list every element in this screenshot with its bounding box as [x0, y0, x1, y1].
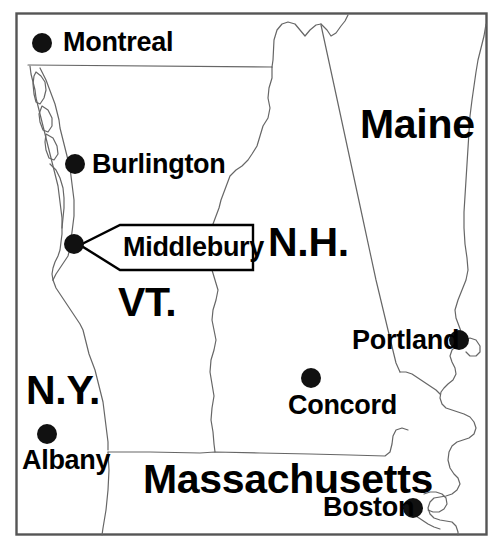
city-label-albany: Albany [22, 447, 110, 474]
state-label-maine: Maine [360, 104, 475, 145]
city-dot-montreal[interactable] [32, 33, 52, 53]
city-label-boston: Boston [323, 494, 414, 521]
city-dot-middlebury[interactable] [64, 234, 84, 254]
state-label-new-york: N.Y. [26, 370, 100, 411]
city-dot-burlington[interactable] [65, 154, 85, 174]
state-label-vermont: VT. [118, 282, 176, 323]
city-label-middlebury: Middlebury [123, 234, 264, 261]
city-label-montreal: Montreal [63, 29, 173, 56]
border-ny-vt [53, 280, 108, 450]
coastline-detail-nh [400, 372, 440, 394]
city-label-concord: Concord [288, 392, 397, 419]
map-figure: Maine N.H. VT. N.Y. Massachusetts Montre… [0, 0, 503, 548]
border-canada-us-west [28, 65, 272, 67]
state-label-new-hampshire: N.H. [268, 222, 349, 263]
border-canada-nh [272, 22, 321, 67]
city-dot-albany[interactable] [37, 424, 57, 444]
city-label-portland: Portland [352, 327, 459, 354]
border-canada-maine [321, 15, 348, 36]
city-label-burlington: Burlington [92, 151, 225, 178]
coastline-detail-bay [416, 516, 440, 529]
border-nh-maine [321, 25, 400, 372]
border-ma-north [108, 428, 408, 456]
lake-champlain-island-3 [45, 134, 58, 160]
city-dot-concord[interactable] [301, 368, 321, 388]
